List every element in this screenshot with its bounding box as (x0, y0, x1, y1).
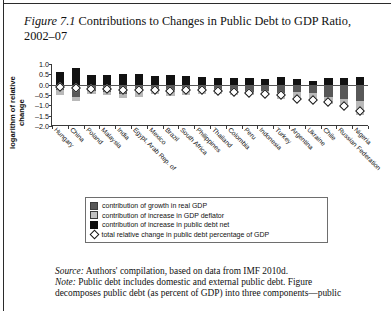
bar-segment-debt-net (103, 75, 111, 85)
y-axis-label: logarithm of relative change (9, 75, 26, 151)
bar-group (261, 64, 269, 126)
legend-diamond-total-icon (89, 230, 99, 240)
figure-page: Figure 7.1 Contributions to Changes in P… (0, 0, 391, 311)
figure-title: Figure 7.1 Contributions to Changes in P… (24, 14, 376, 43)
bar-group (198, 64, 206, 126)
bar-group (293, 64, 301, 126)
bar-segment-debt-net (230, 78, 238, 85)
bar-segment-debt-net (151, 76, 159, 84)
note-line-1: Note: Public debt includes domestic and … (55, 277, 385, 288)
y-tick-label: –0.5 (35, 91, 49, 100)
source-line: Source: Authors' compilation, based on d… (55, 266, 385, 277)
bar-segment-debt-net (214, 78, 222, 85)
y-tick-label: –1.5 (35, 111, 49, 120)
y-tick-label: 0.5 (39, 70, 49, 79)
bar-group (166, 64, 174, 126)
legend-item-growth: contribution of growth in real GDP (90, 201, 322, 211)
y-tick-label: 1.0 (39, 60, 49, 69)
legend-item-total: total relative change in public debt per… (90, 230, 322, 240)
x-tick-mark (368, 126, 369, 129)
bar-segment-growth (309, 85, 317, 93)
bar-segment-debt-net (135, 74, 143, 85)
bar-segment-debt-net (119, 74, 127, 85)
legend-item-deflator: contribution of increase in GDP deflator (90, 211, 322, 221)
bar-group (151, 64, 159, 126)
note-label: Note: (55, 277, 76, 287)
bar-group (119, 64, 127, 126)
bar-group (245, 64, 253, 126)
bar-segment-debt-net (340, 78, 348, 85)
y-tick-label: –2.0 (35, 122, 49, 131)
bar-segment-growth (293, 85, 301, 93)
bar-segment-debt-net (166, 75, 174, 85)
bar-group (72, 64, 80, 126)
figure-number: Figure 7.1 (24, 14, 75, 28)
bar-group (87, 64, 95, 126)
bar-group (324, 64, 332, 126)
bar-segment-growth (340, 85, 348, 99)
bar-series-group (52, 64, 368, 126)
chart-area: logarithm of relative change 1.00.50.0–0… (0, 56, 391, 196)
legend-label-deflator: contribution of increase in GDP deflator (102, 211, 224, 221)
bar-group (340, 64, 348, 126)
figure-footnotes: Source: Authors' compilation, based on d… (55, 266, 385, 300)
source-label: Source: (55, 266, 84, 276)
source-text: Authors' compilation, based on data from… (84, 266, 288, 276)
bar-segment-debt-net (356, 77, 364, 85)
chart-legend: contribution of growth in real GDP contr… (85, 197, 328, 243)
bar-group (56, 64, 64, 126)
legend-item-debtnet: contribution of increase in public debt … (90, 220, 322, 230)
bar-segment-deflator (72, 97, 80, 101)
bar-group (214, 64, 222, 126)
bar-group (230, 64, 238, 126)
bar-segment-debt-net (87, 75, 95, 84)
bar-segment-growth (356, 85, 364, 101)
y-tick-label: 0.0 (39, 80, 49, 89)
bar-segment-deflator (119, 94, 127, 97)
bar-group (135, 64, 143, 126)
bar-group (103, 64, 111, 126)
page-top-rule (3, 3, 391, 4)
legend-swatch-debtnet-icon (90, 221, 98, 229)
bar-segment-debt-net (277, 77, 285, 84)
bar-group (356, 64, 364, 126)
bar-group (309, 64, 317, 126)
legend-swatch-growth-icon (90, 202, 98, 210)
bar-segment-debt-net (182, 76, 190, 85)
bar-segment-growth (324, 85, 332, 98)
note-text: Public debt includes domestic and extern… (76, 277, 312, 287)
bar-group (277, 64, 285, 126)
legend-label-growth: contribution of growth in real GDP (102, 201, 207, 211)
legend-swatch-deflator-icon (90, 211, 98, 219)
bar-segment-debt-net (198, 77, 206, 84)
plot-region: 1.00.50.0–0.5–1.0–1.5–2.0 (52, 64, 368, 126)
bar-group (182, 64, 190, 126)
x-axis-labels: HungaryChinaPolandMalaysiaIndiaEgypt, Ar… (52, 126, 368, 192)
legend-label-debtnet: contribution of increase in public debt … (102, 220, 229, 230)
legend-label-total: total relative change in public debt per… (102, 230, 270, 240)
y-tick-label: –1.0 (35, 101, 49, 110)
note-line-2: decomposes public debt (as percent of GD… (55, 288, 385, 299)
